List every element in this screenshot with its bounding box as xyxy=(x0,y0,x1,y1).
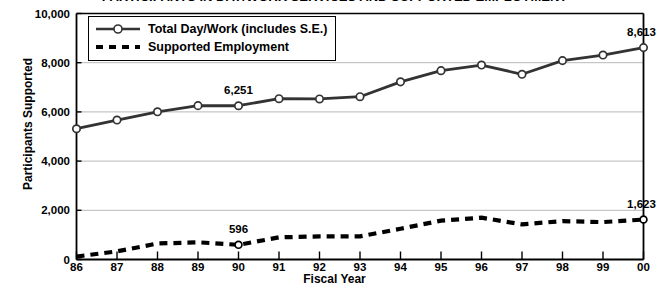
legend-key-dashed-line xyxy=(95,40,141,54)
data-point-marker xyxy=(356,93,363,100)
data-point-marker xyxy=(154,108,161,115)
data-point-marker xyxy=(437,67,444,74)
legend-item-supported-employment: Supported Employment xyxy=(95,38,327,56)
data-point-marker xyxy=(518,71,525,78)
data-point-marker xyxy=(316,95,323,102)
data-point-marker xyxy=(640,216,647,223)
data-point-marker xyxy=(235,102,242,109)
data-value-label: 6,251 xyxy=(224,84,253,96)
legend-item-total-day-work: Total Day/Work (includes S.E.) xyxy=(95,20,327,38)
data-point-marker xyxy=(275,95,282,102)
data-point-marker xyxy=(194,102,201,109)
data-value-label: 1,623 xyxy=(627,198,656,210)
data-point-marker xyxy=(559,57,566,64)
chart-container: PARTICIPANTS IN DAY/WORK SERVICES AND SU… xyxy=(0,0,669,290)
data-point-marker xyxy=(397,78,404,85)
legend: Total Day/Work (includes S.E.) Supported… xyxy=(88,16,336,61)
data-point-marker xyxy=(113,116,120,123)
data-point-marker xyxy=(478,61,485,68)
data-point-marker xyxy=(599,51,606,58)
data-value-label: 8,613 xyxy=(627,26,656,38)
data-point-marker xyxy=(640,44,647,51)
legend-key-solid-line-open-circle xyxy=(95,22,141,36)
series-line-supported-employment xyxy=(77,218,644,257)
data-point-marker xyxy=(235,241,242,248)
data-value-label: 596 xyxy=(229,223,248,235)
data-point-marker xyxy=(73,125,80,132)
legend-label-supported-employment: Supported Employment xyxy=(148,40,289,54)
legend-label-total-day-work: Total Day/Work (includes S.E.) xyxy=(148,22,327,36)
